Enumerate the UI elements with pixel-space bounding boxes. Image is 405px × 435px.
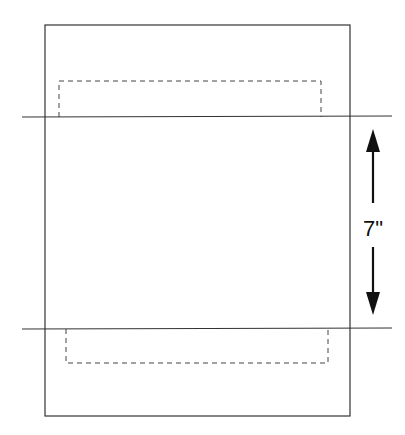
dimension-label: 7"	[363, 216, 383, 241]
background	[0, 0, 405, 435]
fold-diagram: 7"	[0, 0, 405, 435]
